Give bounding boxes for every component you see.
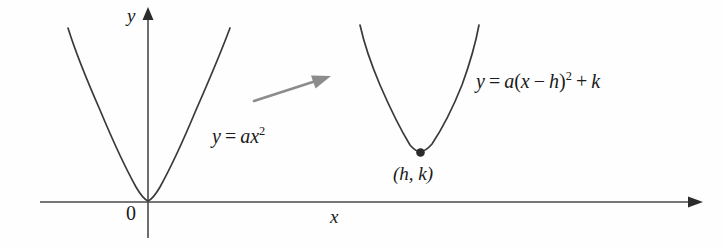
transformation-arrow-head [311,76,331,89]
equation-vertex-minus: − [534,70,545,92]
equation-vertex-open-paren: ( [514,70,521,92]
equation-standard-equals: = [225,125,236,147]
vertex-coordinate-label: (h, k) [393,164,433,183]
x-axis [40,197,703,208]
parabola-vertex-form-curve [360,25,479,152]
origin-label: 0 [126,203,136,223]
equation-vertex-a: a [504,70,514,92]
parabola-transformation-figure: y x 0 y=ax2 y=a(x−h)2+k (h, k) [0,0,724,248]
parabola-standard-curve [68,28,230,201]
equation-standard-exponent: 2 [259,124,265,138]
equation-vertex-k: k [591,70,600,92]
equation-standard-y: y [212,125,221,147]
equation-standard-form: y=ax2 [212,126,265,146]
equation-standard-a: a [240,125,250,147]
equation-vertex-exponent: 2 [566,69,572,83]
equation-standard-x: x [250,125,259,147]
x-axis-arrowhead-icon [688,197,703,208]
transformation-arrow-shaft [254,79,322,101]
equation-vertex-close-paren: ) [559,70,566,92]
y-axis-arrowhead-icon [143,7,154,20]
x-axis-label: x [330,207,338,226]
y-axis [143,7,154,238]
equation-vertex-x: x [521,70,530,92]
equation-vertex-plus: + [576,70,587,92]
y-axis-label: y [127,6,135,25]
vertex-point-marker [416,148,425,157]
equation-vertex-y: y [476,70,485,92]
equation-vertex-h: h [549,70,559,92]
transformation-arrow-icon [254,76,331,102]
equation-vertex-form: y=a(x−h)2+k [476,71,600,91]
figure-canvas [0,0,724,248]
equation-vertex-equals: = [489,70,500,92]
